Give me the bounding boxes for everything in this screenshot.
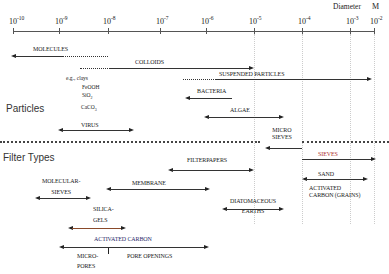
gridline [254,34,255,224]
virus-label: VIRUS [81,122,99,129]
section-separator [302,141,389,143]
axis-tick [160,28,161,34]
bacteria-label: BACTERIA [197,88,226,95]
axis-tick [206,28,207,34]
colloid-examples: e.g., clays FeOOH SiO2 CaCO3 [66,74,99,114]
example-sio2: SiO2 [66,91,99,103]
activated-carbon-grains-label: ACTIVATED CARBON (GRAINS) [309,185,360,199]
tick-label-1e-2: 10-2 [370,15,383,26]
tick-label-1e-7: 10-7 [156,15,169,26]
axis-unit: M [372,2,379,11]
colloids-label: COLLOIDS [135,59,164,66]
tick-label-1e-5: 10-5 [249,15,262,26]
membrane-label: MEMBRANE [132,180,166,187]
axis-tick [13,28,14,34]
example-clays: e.g., clays [66,74,99,83]
algae-label: ALGAE [230,107,250,114]
filterpapers-label: FILTERPAPERS [187,157,227,164]
molecules-label: MOLECULES [33,46,68,53]
sand-label: SAND [318,171,334,178]
tick-label-1e-3: 10-3 [346,15,359,26]
tick-label-1e-9: 10-9 [55,15,68,26]
tick-label-1e-6: 10-6 [201,15,214,26]
pore-openings-label: PORE OPENINGS [127,253,172,260]
tick-label-1e-10: 10-10 [9,15,24,26]
axis-title: Diameter [333,2,361,11]
activated-carbon-label: ACTIVATED CARBON [94,236,152,243]
diameter-axis [13,31,375,32]
gridline [302,34,303,224]
axis-tick [108,28,109,34]
micropores-label: MICRO- PORES [77,253,98,270]
section-filter-types: Filter Types [3,152,55,163]
micro-sieves-label: MICRO SIEVES [272,127,292,141]
section-separator [0,141,260,143]
suspended-particles-label: SUSPENDED PARTICLES [219,71,284,78]
micropore-divider [108,248,109,254]
sieves-label: SIEVES [318,151,338,158]
axis-tick [59,28,60,34]
tick-label-1e-4: 10-4 [298,15,311,26]
example-feooh: FeOOH [66,83,99,92]
tick-label-1e-8: 10-8 [103,15,116,26]
example-caco3: CaCO3 [66,103,99,115]
diatomaceous-earths-label: DIATOMACEOUS EARTHS [230,198,276,215]
gridline [374,34,375,224]
molecular-sieves-label: MOLECULAR- SIEVES [42,178,80,196]
silica-gels-label: SILICA- GELS [93,206,114,224]
section-particles: Particles [6,103,44,114]
